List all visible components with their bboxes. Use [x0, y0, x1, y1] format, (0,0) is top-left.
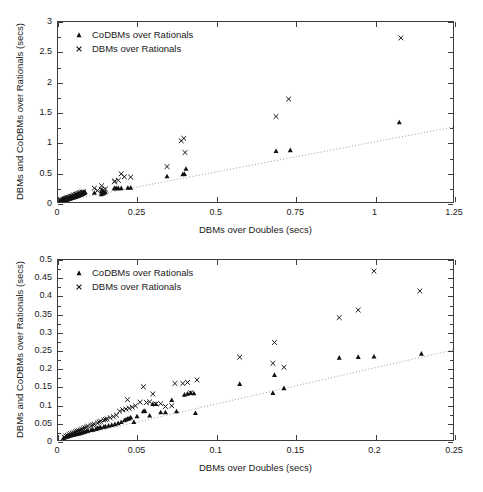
y-tick-right — [448, 52, 453, 53]
y-tick-minor-right — [450, 159, 453, 160]
x-tick-label: 0.05 — [128, 446, 146, 455]
x-tick-label: 0.15 — [286, 446, 304, 455]
y-tick-label: 0.3 — [39, 327, 52, 336]
y-tick — [58, 442, 63, 443]
y-tick — [58, 83, 63, 84]
x-tick-top — [217, 22, 218, 27]
y-tick-minor — [58, 360, 61, 361]
x-tick — [296, 197, 297, 202]
cross-marker-icon — [72, 280, 86, 294]
chart-panel-bottom: DBMs and CoDBMs over Rationals (secs) 00… — [0, 246, 483, 492]
triangle-marker-icon — [72, 28, 86, 42]
x-tick — [455, 197, 456, 202]
legend-label-dbms-bottom: DBMs over Rationals — [92, 281, 181, 292]
y-tick-right — [448, 424, 453, 425]
y-tick-right — [448, 442, 453, 443]
y-tick-minor — [58, 269, 61, 270]
y-tick-minor — [58, 287, 61, 288]
y-tick-minor-right — [450, 415, 453, 416]
x-tick — [376, 197, 377, 202]
chart-panel-top: DBMs and CoDBMs over Rationals (secs) 00… — [0, 0, 483, 246]
x-tick-label: 0.2 — [368, 446, 381, 455]
cross-marker-icon — [72, 42, 86, 56]
y-tick-right — [448, 387, 453, 388]
y-tick-minor-right — [450, 128, 453, 129]
y-tick-label: 0 — [47, 437, 52, 446]
y-tick-right — [448, 315, 453, 316]
y-tick-minor — [58, 397, 61, 398]
y-tick-right — [448, 143, 453, 144]
y-tick-minor — [58, 342, 61, 343]
y-tick-right — [448, 113, 453, 114]
y-tick-label: 0.1 — [39, 400, 52, 409]
y-tick — [58, 406, 63, 407]
y-tick-label: 0.25 — [34, 346, 52, 355]
y-tick-right — [448, 333, 453, 334]
y-tick-label: 0.05 — [34, 418, 52, 427]
x-tick-top — [137, 260, 138, 265]
y-tick-label: 0.35 — [34, 309, 52, 318]
y-tick — [58, 52, 63, 53]
y-tick-label: 0 — [47, 199, 52, 208]
plot-frame-top: CoDBMs over Rationals DBMs over Rational… — [57, 21, 454, 203]
y-tick — [58, 315, 63, 316]
legend-label-codbms-bottom: CoDBMs over Rationals — [92, 267, 193, 278]
x-tick-label: 0.25 — [445, 446, 463, 455]
legend-label-codbms-top: CoDBMs over Rationals — [92, 29, 193, 40]
y-tick — [58, 143, 63, 144]
y-tick-label: 1 — [47, 138, 52, 147]
y-tick-minor-right — [450, 306, 453, 307]
x-tick-label: 0.1 — [210, 446, 223, 455]
y-tick-right — [448, 406, 453, 407]
x-tick — [137, 435, 138, 440]
y-tick-right — [448, 204, 453, 205]
x-tick-label: 0 — [54, 208, 59, 217]
y-tick-right — [448, 22, 453, 23]
y-tick-minor-right — [450, 37, 453, 38]
y-tick-right — [448, 260, 453, 261]
y-tick-minor — [58, 415, 61, 416]
x-tick-label: 1.25 — [445, 208, 463, 217]
y-tick-label: 2 — [47, 77, 52, 86]
y-tick-minor — [58, 159, 61, 160]
x-axis-tick-labels-top: 00.250.50.7511.25 — [57, 208, 454, 220]
x-axis-title-top: DBMs over Doubles (secs) — [57, 224, 454, 235]
triangle-marker-icon — [72, 266, 86, 280]
y-tick — [58, 424, 63, 425]
y-tick-minor — [58, 37, 61, 38]
y-tick-minor-right — [450, 98, 453, 99]
x-tick — [217, 197, 218, 202]
y-tick-minor — [58, 324, 61, 325]
y-tick — [58, 204, 63, 205]
y-tick — [58, 296, 63, 297]
scatter-plot-figure: DBMs and CoDBMs over Rationals (secs) 00… — [0, 0, 483, 492]
y-tick-right — [448, 296, 453, 297]
y-tick-right — [448, 278, 453, 279]
y-tick — [58, 387, 63, 388]
x-tick-top — [58, 22, 59, 27]
y-tick-minor-right — [450, 378, 453, 379]
x-tick-top — [296, 22, 297, 27]
y-tick-label: 0.15 — [34, 382, 52, 391]
x-tick — [376, 435, 377, 440]
x-tick-label: 0.75 — [286, 208, 304, 217]
y-tick-minor — [58, 306, 61, 307]
x-tick-label: 0.5 — [210, 208, 223, 217]
y-tick-label: 0.5 — [39, 255, 52, 264]
x-tick — [58, 197, 59, 202]
x-tick-top — [376, 22, 377, 27]
x-tick-top — [217, 260, 218, 265]
y-tick-minor-right — [450, 342, 453, 343]
y-tick-minor-right — [450, 189, 453, 190]
y-tick — [58, 351, 63, 352]
x-axis-tick-labels-bottom: 00.050.10.150.20.25 — [57, 446, 454, 458]
y-tick — [58, 113, 63, 114]
y-tick-label: 0.45 — [34, 273, 52, 282]
y-tick-minor — [58, 433, 61, 434]
plot-frame-bottom: CoDBMs over Rationals DBMs over Rational… — [57, 259, 454, 441]
y-tick-right — [448, 369, 453, 370]
y-axis-tick-labels-bottom: 00.050.10.150.20.250.30.350.40.450.5 — [17, 259, 52, 441]
y-tick-label: 0.5 — [39, 168, 52, 177]
x-tick-label: 0 — [54, 446, 59, 455]
x-tick-top — [58, 260, 59, 265]
